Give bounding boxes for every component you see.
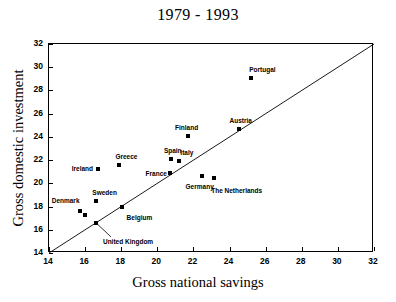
x-tick-mark xyxy=(230,247,231,251)
data-point-marker[interactable] xyxy=(169,157,173,161)
x-tick-label: 26 xyxy=(260,256,269,266)
y-tick-mark xyxy=(49,90,53,91)
data-point-label: United Kingdom xyxy=(103,239,153,246)
x-tick-label: 20 xyxy=(152,256,161,266)
plot-area: DenmarkUnited KingdomSwedenIrelandGreece… xyxy=(48,43,373,252)
chart-title: 1979 - 1993 xyxy=(0,6,396,24)
data-point-marker[interactable] xyxy=(237,127,241,131)
data-point-marker[interactable] xyxy=(212,176,216,180)
data-point-marker[interactable] xyxy=(186,134,190,138)
x-tick-label: 22 xyxy=(188,256,197,266)
y-tick-label: 24 xyxy=(26,131,43,141)
data-point-label: Belgium xyxy=(127,215,153,222)
x-tick-label: 18 xyxy=(115,256,124,266)
x-tick-label: 30 xyxy=(332,256,341,266)
data-point-label: Portugal xyxy=(249,67,275,74)
data-point-marker[interactable] xyxy=(177,159,181,163)
x-tick-label: 28 xyxy=(296,256,305,266)
x-axis-title: Gross national savings xyxy=(0,274,396,291)
y-tick-mark xyxy=(49,44,53,45)
x-tick-mark xyxy=(157,247,158,251)
y-tick-mark xyxy=(49,67,53,68)
y-tick-mark xyxy=(49,114,53,115)
y-tick-mark xyxy=(49,230,53,231)
x-tick-label: 16 xyxy=(79,256,88,266)
y-tick-label: 22 xyxy=(26,154,43,164)
data-point-label: Sweden xyxy=(92,190,117,197)
scatter-chart-figure: 1979 - 1993 Gross domestic investment De… xyxy=(0,0,396,302)
data-point-marker[interactable] xyxy=(94,221,98,225)
x-tick-mark xyxy=(338,247,339,251)
data-point-marker[interactable] xyxy=(96,167,100,171)
data-point-label: Austria xyxy=(230,118,252,125)
data-point-marker[interactable] xyxy=(94,199,98,203)
x-tick-mark xyxy=(374,247,375,251)
x-tick-mark xyxy=(302,247,303,251)
data-point-label: France xyxy=(146,171,167,178)
y-tick-label: 26 xyxy=(26,108,43,118)
data-point-marker[interactable] xyxy=(200,174,204,178)
y-tick-label: 14 xyxy=(26,247,43,257)
x-tick-mark xyxy=(121,247,122,251)
y-tick-mark xyxy=(49,183,53,184)
data-point-label: Ireland xyxy=(72,166,93,173)
x-tick-label: 24 xyxy=(224,256,233,266)
y-tick-mark xyxy=(49,207,53,208)
data-point-label: Greece xyxy=(115,154,137,161)
y-tick-mark xyxy=(49,160,53,161)
data-point-marker[interactable] xyxy=(120,205,124,209)
data-point-marker[interactable] xyxy=(83,213,87,217)
x-tick-label: 32 xyxy=(368,256,377,266)
y-tick-label: 32 xyxy=(26,38,43,48)
data-point-marker[interactable] xyxy=(117,163,121,167)
x-tick-mark xyxy=(266,247,267,251)
y-axis-title: Gross domestic investment xyxy=(10,38,27,258)
y-tick-mark xyxy=(49,137,53,138)
data-point-label: Finland xyxy=(175,125,198,132)
data-point-marker[interactable] xyxy=(78,209,82,213)
data-point-marker[interactable] xyxy=(249,76,253,80)
data-point-label: The Netherlands xyxy=(211,188,262,195)
x-tick-label: 14 xyxy=(43,256,52,266)
x-tick-mark xyxy=(193,247,194,251)
data-point-label: Italy xyxy=(180,150,193,157)
data-point-label: Spain xyxy=(164,148,182,155)
y-tick-mark xyxy=(49,253,53,254)
y-tick-label: 16 xyxy=(26,224,43,234)
data-point-label: Denmark xyxy=(52,198,80,205)
y-tick-label: 30 xyxy=(26,61,43,71)
leader-lines xyxy=(96,223,111,237)
data-point-label: Germany xyxy=(186,184,214,191)
y-tick-label: 28 xyxy=(26,84,43,94)
data-point-marker[interactable] xyxy=(168,171,172,175)
x-tick-mark xyxy=(85,247,86,251)
y-tick-label: 18 xyxy=(26,201,43,211)
y-tick-label: 20 xyxy=(26,177,43,187)
x-tick-mark xyxy=(49,247,50,251)
